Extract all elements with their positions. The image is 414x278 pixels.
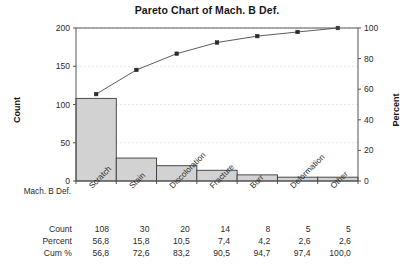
chart-canvas: 050100150200 020406080100 ScratchStainDi… <box>0 0 414 278</box>
y-axis-left-ticks: 050100150200 <box>56 23 76 186</box>
table-cell: 100,0 <box>329 248 351 258</box>
y-axis-right-ticks: 020406080100 <box>358 23 379 186</box>
table-cell: 15,8 <box>133 236 150 246</box>
table-row-label: Count <box>49 224 73 234</box>
y-axis-left-tick-label: 0 <box>65 176 70 186</box>
table-cell: 56,8 <box>92 236 109 246</box>
y-axis-left-tick-label: 150 <box>56 61 71 71</box>
table-cell: 4,2 <box>258 236 270 246</box>
table-cell: 90,5 <box>213 248 230 258</box>
x-axis-title: Mach. B Def. <box>24 187 71 196</box>
line-marker <box>94 92 98 96</box>
table-cell: 72,6 <box>133 248 150 258</box>
line-marker <box>296 30 300 34</box>
table-cell: 2,6 <box>299 236 311 246</box>
table-cell: 30 <box>140 224 150 234</box>
table-cell: 108 <box>95 224 110 234</box>
table-cell: 5 <box>346 224 351 234</box>
y-axis-left-tick-label: 100 <box>56 100 71 110</box>
table-cell: 20 <box>180 224 190 234</box>
table-cell: 2,6 <box>339 236 351 246</box>
table-cell: 7,4 <box>218 236 230 246</box>
y-axis-right-tick-label: 40 <box>364 115 374 125</box>
y-axis-left-tick-label: 50 <box>60 138 70 148</box>
table-cell: 8 <box>266 224 271 234</box>
y-axis-right-title: Percent <box>391 93 401 126</box>
table-row-label: Percent <box>42 236 72 246</box>
table-cell: 56,8 <box>92 248 109 258</box>
table-cell: 14 <box>220 224 230 234</box>
cumulative-line-series <box>94 26 339 96</box>
line-marker <box>255 34 259 38</box>
y-axis-right-tick-label: 80 <box>364 54 374 64</box>
table-cell: 97,4 <box>294 248 311 258</box>
y-axis-right-tick-label: 0 <box>364 176 369 186</box>
y-axis-left-title: Count <box>12 97 22 123</box>
data-table: Count108302014855Percent56,815,810,57,44… <box>42 224 351 258</box>
table-row-label: Cum % <box>44 248 73 258</box>
y-axis-right-tick-label: 20 <box>364 145 374 155</box>
line-marker <box>175 52 179 56</box>
table-cell: 5 <box>306 224 311 234</box>
y-axis-right-tick-label: 60 <box>364 84 374 94</box>
y-axis-right-tick-label: 100 <box>364 23 379 33</box>
line-marker <box>135 68 139 72</box>
table-cell: 10,5 <box>173 236 190 246</box>
table-cell: 94,7 <box>254 248 271 258</box>
pareto-chart: Pareto Chart of Mach. B Def. 05010015020… <box>0 0 414 278</box>
gridlines <box>76 28 358 143</box>
table-cell: 83,2 <box>173 248 190 258</box>
category-label: Deformation <box>289 152 327 190</box>
line-marker <box>215 41 219 45</box>
y-axis-left-tick-label: 200 <box>56 23 71 33</box>
